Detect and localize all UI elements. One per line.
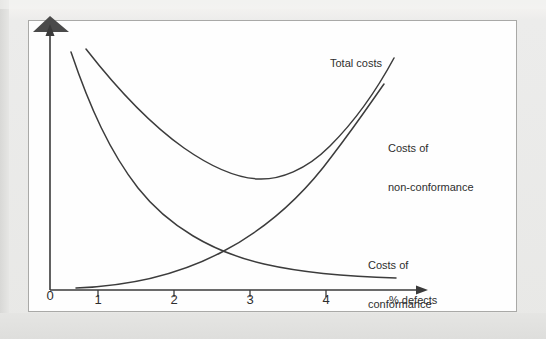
series-label-total-costs: Total costs [330, 57, 382, 70]
series-label-non-conformance-line2: non-conformance [388, 181, 474, 194]
series-label-conformance-line1: Costs of [368, 259, 432, 272]
x-tick-label-4: 4 [316, 292, 336, 307]
x-tick-label-2: 2 [164, 292, 184, 307]
x-tick-label-3: 3 [240, 292, 260, 307]
curve-costs-of-conformance [71, 52, 396, 278]
series-label-non-conformance: Costs of non-conformance [388, 116, 474, 207]
series-label-conformance-line2: conformance [368, 298, 432, 311]
x-tick-label-1: 1 [88, 292, 108, 307]
page-gutter-shadow [0, 0, 9, 339]
series-label-non-conformance-line1: Costs of [388, 142, 474, 155]
page-top-cropped-text [0, 0, 546, 9]
x-tick-label-0: 0 [40, 288, 60, 303]
curve-costs-of-non-conformance [76, 84, 384, 288]
series-label-conformance: Costs of conformance [368, 233, 432, 324]
